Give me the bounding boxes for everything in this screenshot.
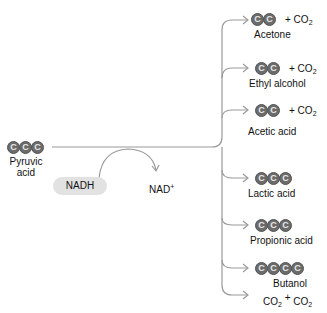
acetone-co2: + CO2: [285, 14, 313, 28]
lactic-acid-molecule: C C C: [255, 172, 291, 185]
lactic-acid-label: Lactic acid: [248, 188, 295, 199]
ethyl-alcohol-label: Ethyl alcohol: [249, 78, 306, 89]
propionic-acid-label: Propionic acid: [250, 235, 313, 246]
carbon-atom: C: [31, 141, 44, 154]
ethyl-alcohol-co2: + CO2: [289, 63, 317, 77]
pyruvic-acid-molecule: C C C: [7, 141, 43, 154]
ethyl-alcohol-molecule: C C: [255, 62, 279, 75]
nadh-badge: NADH: [53, 177, 107, 195]
carbon-atom: C: [279, 219, 292, 232]
propionic-acid-molecule: C C C: [255, 219, 291, 232]
butanol-molecule: C C C C: [255, 262, 303, 275]
acetic-acid-co2: + CO2: [289, 105, 317, 119]
carbon-atom: C: [263, 13, 276, 26]
co2-plus-co2: CO2 + CO2: [263, 292, 312, 310]
carbon-atom: C: [267, 62, 280, 75]
acetone-label: Acetone: [254, 29, 291, 40]
nad-plus-label: NAD+: [149, 181, 174, 195]
carbon-atom: C: [291, 262, 304, 275]
carbon-atom: C: [279, 172, 292, 185]
acetone-molecule: C C: [251, 13, 275, 26]
carbon-atom: C: [267, 104, 280, 117]
butanol-label: Butanol: [273, 278, 307, 289]
acetic-acid-molecule: C C: [255, 104, 279, 117]
acetic-acid-label: Acetic acid: [248, 126, 296, 137]
pyruvic-acid-label: Pyruvic acid: [7, 156, 45, 178]
